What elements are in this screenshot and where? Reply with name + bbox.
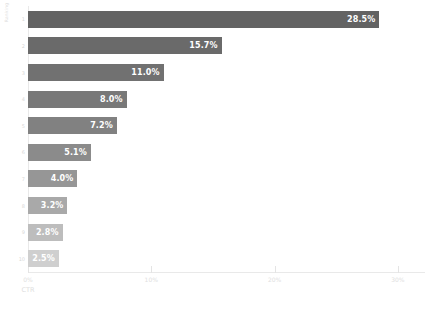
bar-row: 28.5% [28,11,425,28]
bar-value-label: 8.0% [100,95,127,104]
bar-value-label: 15.7% [189,41,221,50]
bar-value-label: 3.2% [41,201,68,210]
bar-row: 2.8% [28,224,425,241]
y-axis-tick-label: 2 [5,43,25,49]
y-axis-tick-label: 7 [5,176,25,182]
y-axis-tick-label: 9 [5,229,25,235]
bar-value-label: 4.0% [51,174,78,183]
bar-row: 8.0% [28,91,425,108]
y-axis-tick-label: 5 [5,123,25,129]
bar-value-label: 2.8% [36,228,63,237]
y-axis-tick-label: 10 [5,256,25,262]
bar-value-label: 2.5% [32,254,59,263]
plot-area: 28.5%15.7%11.0%8.0%7.2%5.1%4.0%3.2%2.8%2… [28,6,425,272]
bar[interactable]: 28.5% [28,11,379,28]
y-axis-tick-labels: 12345678910 [0,6,25,272]
bar-value-label: 28.5% [347,15,379,24]
horizontal-bar-chart: Ranking 12345678910 0%10%20%30% 28.5%15.… [0,0,433,311]
bar[interactable]: 11.0% [28,64,164,81]
x-axis-tick-label: 10% [145,276,158,283]
bar-value-label: 5.1% [64,148,91,157]
x-axis-tick-label: 30% [391,276,404,283]
y-axis-tick-label: 3 [5,70,25,76]
bar-row: 5.1% [28,144,425,161]
bar[interactable]: 15.7% [28,37,222,54]
bar-value-label: 7.2% [90,121,117,130]
y-axis-tick-label: 4 [5,96,25,102]
bar-row: 11.0% [28,64,425,81]
bar[interactable]: 3.2% [28,197,67,214]
bar[interactable]: 2.8% [28,224,63,241]
bar-row: 2.5% [28,250,425,267]
bar[interactable]: 2.5% [28,250,59,267]
x-axis-tick-label: 20% [268,276,281,283]
bar-row: 3.2% [28,197,425,214]
bar[interactable]: 4.0% [28,170,77,187]
bar[interactable]: 8.0% [28,91,127,108]
y-axis-tick-label: 1 [5,16,25,22]
bar[interactable]: 5.1% [28,144,91,161]
bar-row: 15.7% [28,37,425,54]
bar-row: 4.0% [28,170,425,187]
y-axis-tick-label: 8 [5,203,25,209]
x-axis-tick-label: 0% [23,276,33,283]
bar-row: 7.2% [28,117,425,134]
x-axis-line [28,272,425,273]
x-axis-title: CTR [21,286,34,294]
bar[interactable]: 7.2% [28,117,117,134]
bar-value-label: 11.0% [131,68,163,77]
y-axis-tick-label: 6 [5,149,25,155]
